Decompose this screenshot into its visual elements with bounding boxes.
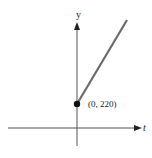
chart-canvas: y t (0, 220) xyxy=(0,0,152,158)
start-point-marker xyxy=(74,101,80,107)
point-label: (0, 220) xyxy=(88,99,117,109)
x-axis-label: t xyxy=(143,122,146,133)
data-line xyxy=(77,20,127,104)
x-axis-arrow-icon xyxy=(134,125,142,131)
y-axis-label: y xyxy=(76,9,81,20)
y-axis-arrow-icon xyxy=(74,22,80,30)
